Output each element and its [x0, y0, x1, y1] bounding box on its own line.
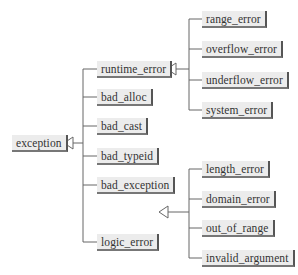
node-range-error: range_error	[202, 11, 267, 28]
node-logic-error: logic_error	[97, 234, 159, 251]
node-system-error: system_error	[202, 102, 273, 119]
inheritance-arrow-icon	[159, 206, 168, 218]
node-out-of-range: out_of_range	[202, 220, 275, 237]
node-bad-alloc: bad_alloc	[97, 89, 153, 106]
node-runtime-error: runtime_error	[97, 61, 172, 78]
node-underflow-error: underflow_error	[202, 72, 289, 89]
node-bad-typeid: bad_typeid	[97, 148, 159, 165]
node-bad-exception: bad_exception	[97, 177, 175, 194]
node-domain-error: domain_error	[202, 191, 276, 208]
node-bad-cast: bad_cast	[97, 118, 148, 135]
node-exception: exception	[12, 135, 68, 152]
node-invalid-argument: invalid_argument	[202, 250, 295, 267]
node-length-error: length_error	[202, 161, 270, 178]
node-overflow-error: overflow_error	[202, 41, 283, 58]
